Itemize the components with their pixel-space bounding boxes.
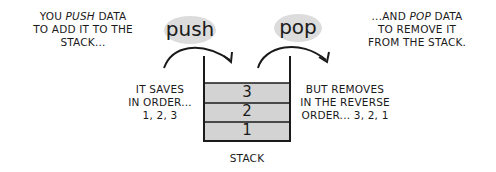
caption-text: IN THE REVERSE [290, 96, 400, 109]
caption-text: IT SAVES [120, 83, 200, 96]
pop-arrow-icon [258, 47, 326, 68]
caption-text: IN ORDER... [120, 96, 200, 109]
stack-cell-1: 1 [205, 121, 289, 140]
stack-label: STACK [205, 152, 289, 165]
caption-text: ORDER... 3, 2, 1 [290, 109, 400, 122]
caption-text: 1, 2, 3 [120, 109, 200, 122]
push-arrow-icon [164, 48, 230, 68]
stack-cell-3: 3 [205, 83, 289, 102]
removes-caption: BUT REMOVES IN THE REVERSE ORDER... 3, 2… [290, 83, 400, 122]
stack-cell-2: 2 [205, 102, 289, 121]
saves-caption: IT SAVES IN ORDER... 1, 2, 3 [120, 83, 200, 122]
caption-text: BUT REMOVES [290, 83, 400, 96]
